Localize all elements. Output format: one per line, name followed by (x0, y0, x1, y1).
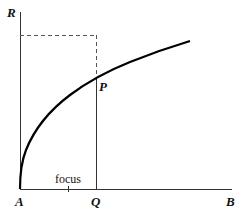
parabola-diagram: R B A Q P focus (0, 0, 243, 223)
label-q: Q (91, 194, 101, 209)
label-focus: focus (55, 172, 81, 186)
diagram-canvas: R B A Q P focus (0, 0, 243, 223)
label-r: R (6, 5, 16, 20)
label-b: B (225, 194, 235, 209)
label-a: A (14, 194, 24, 209)
label-p: P (99, 79, 108, 94)
parabola-curve (20, 41, 190, 189)
